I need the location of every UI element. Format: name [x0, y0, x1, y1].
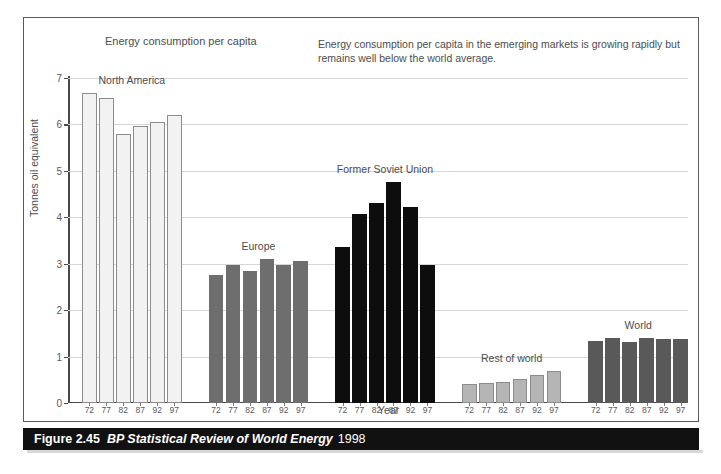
bar	[403, 207, 418, 403]
x-tick-label: 92	[532, 405, 541, 415]
x-tick-label: 92	[659, 405, 668, 415]
x-tick-label: 72	[338, 405, 347, 415]
y-tick-mark	[64, 171, 68, 172]
y-tick-mark	[64, 357, 68, 358]
bar	[513, 379, 528, 403]
x-tick-label: 97	[169, 405, 178, 415]
figure-container: Energy consumption per capita Energy con…	[0, 0, 721, 474]
group-label: Europe	[241, 240, 275, 252]
x-tick-label: 87	[389, 405, 398, 415]
x-tick-label: 92	[279, 405, 288, 415]
x-tick-label: 92	[153, 405, 162, 415]
y-tick-mark	[64, 217, 68, 218]
x-tick-label: 72	[85, 405, 94, 415]
bar	[479, 383, 494, 403]
y-tick-mark	[64, 310, 68, 311]
bar	[133, 126, 148, 403]
bar	[369, 203, 384, 403]
y-tick-label: 1	[56, 351, 62, 362]
bar	[352, 214, 367, 403]
y-tick-mark	[64, 124, 68, 125]
bar	[496, 382, 511, 403]
y-tick-label: 3	[56, 258, 62, 269]
y-tick-label: 4	[56, 212, 62, 223]
x-tick-label: 82	[119, 405, 128, 415]
x-tick-label: 72	[464, 405, 473, 415]
bar	[260, 259, 275, 403]
x-tick-label: 77	[102, 405, 111, 415]
x-tick-label: 82	[372, 405, 381, 415]
bar	[150, 122, 165, 403]
x-tick-label: 97	[676, 405, 685, 415]
bar	[82, 93, 97, 403]
caption-year: 1998	[338, 432, 366, 446]
x-tick-label: 77	[608, 405, 617, 415]
bar	[639, 338, 654, 403]
bar	[530, 375, 545, 403]
bar	[673, 339, 688, 403]
y-tick-mark	[64, 78, 68, 79]
y-tick-label: 2	[56, 305, 62, 316]
x-tick-label: 97	[423, 405, 432, 415]
x-tick-label: 87	[136, 405, 145, 415]
bar	[386, 182, 401, 403]
x-tick-label: 87	[515, 405, 524, 415]
plot-area: 01234567727782879297North America7277828…	[68, 78, 688, 403]
group-label: World	[625, 319, 652, 331]
bar	[276, 265, 291, 403]
y-tick-label: 7	[56, 73, 62, 84]
chart-title: Energy consumption per capita	[105, 35, 257, 47]
x-tick-label: 82	[625, 405, 634, 415]
group-label: North America	[99, 74, 166, 86]
figure-caption-bar: Figure 2.45 BP Statistical Review of Wor…	[23, 428, 699, 450]
x-tick-label: 72	[211, 405, 220, 415]
y-tick-mark	[64, 403, 68, 404]
x-tick-label: 87	[262, 405, 271, 415]
y-axis-title: Tonnes oil equivalent	[28, 119, 40, 217]
bar	[226, 265, 241, 403]
group-label: Rest of world	[481, 352, 542, 364]
bar	[293, 261, 308, 403]
bar	[243, 271, 258, 403]
bar	[622, 342, 637, 403]
bar	[99, 98, 114, 404]
bar	[605, 338, 620, 403]
x-tick-label: 72	[591, 405, 600, 415]
x-tick-label: 82	[498, 405, 507, 415]
caption-source-title: BP Statistical Review of World Energy	[107, 432, 333, 446]
bar	[656, 339, 671, 403]
bar	[420, 265, 435, 403]
caption-figure-number: Figure 2.45	[34, 432, 100, 446]
chart-annotation: Energy consumption per capita in the eme…	[318, 37, 688, 65]
bar	[209, 275, 224, 403]
bar	[116, 134, 131, 403]
y-tick-label: 5	[56, 165, 62, 176]
x-tick-label: 77	[355, 405, 364, 415]
x-tick-label: 92	[406, 405, 415, 415]
x-tick-label: 97	[549, 405, 558, 415]
x-tick-label: 77	[228, 405, 237, 415]
bar	[462, 384, 477, 403]
group-label: Former Soviet Union	[337, 163, 433, 175]
bar	[547, 371, 562, 403]
y-tick-mark	[64, 264, 68, 265]
y-tick-label: 0	[56, 398, 62, 409]
caption-shadow	[27, 450, 703, 453]
bar	[167, 115, 182, 403]
x-tick-label: 82	[245, 405, 254, 415]
x-tick-label: 87	[642, 405, 651, 415]
bar	[335, 247, 350, 403]
y-tick-label: 6	[56, 119, 62, 130]
x-tick-label: 77	[481, 405, 490, 415]
x-tick-label: 97	[296, 405, 305, 415]
bar	[588, 341, 603, 403]
